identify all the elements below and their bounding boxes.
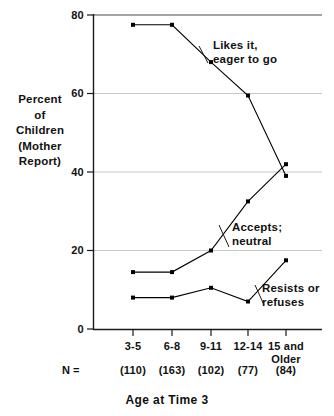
n-value-4: (84): [258, 364, 314, 376]
data-point-marker: [284, 174, 288, 178]
data-point-marker: [131, 296, 135, 300]
data-point-marker: [131, 23, 135, 27]
x-tick-label-4: 15 and Older: [258, 340, 314, 366]
annotation-resists-line-1: Resists or: [262, 281, 320, 295]
data-point-marker: [209, 286, 213, 290]
annotation-likes-it-line-2: eager to go: [213, 52, 277, 66]
data-point-marker: [170, 296, 174, 300]
annotation-likes-it-line-1: Likes it,: [213, 38, 277, 52]
x-tick-label-4-line-1: 15 and: [258, 340, 314, 353]
data-point-marker: [246, 94, 250, 98]
data-point-marker: [170, 23, 174, 27]
annotation-accepts-line-1: Accepts;: [232, 220, 282, 234]
y-axis-ticks: [87, 15, 93, 329]
series-accepts-neutral: [131, 162, 288, 274]
chart-figure: 80 60 40 20 0 Percent of Children (Mothe…: [0, 0, 334, 416]
annotation-resists-refuses: Resists or refuses: [262, 281, 320, 309]
annotation-likes-it: Likes it, eager to go: [213, 38, 277, 66]
data-point-marker: [170, 270, 174, 274]
gridlines: [93, 94, 322, 251]
annotation-accepts-neutral: Accepts; neutral: [232, 220, 282, 248]
data-point-marker: [246, 199, 250, 203]
series-line: [133, 164, 286, 272]
n-prefix-label: N =: [62, 364, 98, 376]
annotation-resists-line-2: refuses: [262, 295, 320, 309]
annotation-leaders: [199, 46, 264, 305]
x-axis-title: Age at Time 3: [0, 393, 334, 407]
data-point-marker: [284, 258, 288, 262]
data-point-marker: [209, 249, 213, 253]
data-point-marker: [284, 162, 288, 166]
annotation-accepts-line-2: neutral: [232, 234, 282, 248]
data-point-marker: [246, 300, 250, 304]
data-point-marker: [131, 270, 135, 274]
x-axis-ticks: [133, 330, 286, 337]
